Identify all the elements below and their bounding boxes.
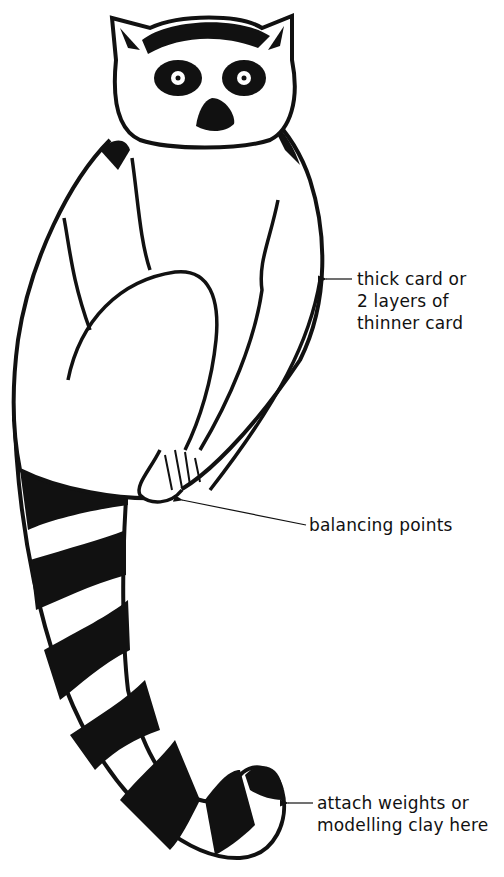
annotation-line: thinner card — [357, 312, 466, 334]
lemur-illustration — [0, 0, 504, 877]
annotation-weights: attach weights or modelling clay here — [317, 792, 488, 836]
arrow-balance — [182, 500, 306, 525]
annotation-line: balancing points — [309, 514, 453, 536]
annotation-balance: balancing points — [309, 514, 453, 536]
head — [112, 16, 295, 148]
body — [14, 115, 323, 502]
annotation-card: thick card or 2 layers of thinner card — [357, 268, 466, 334]
annotation-line: 2 layers of — [357, 290, 466, 312]
annotation-line: modelling clay here — [317, 814, 488, 836]
annotation-line: thick card or — [357, 268, 466, 290]
annotation-line: attach weights or — [317, 792, 488, 814]
